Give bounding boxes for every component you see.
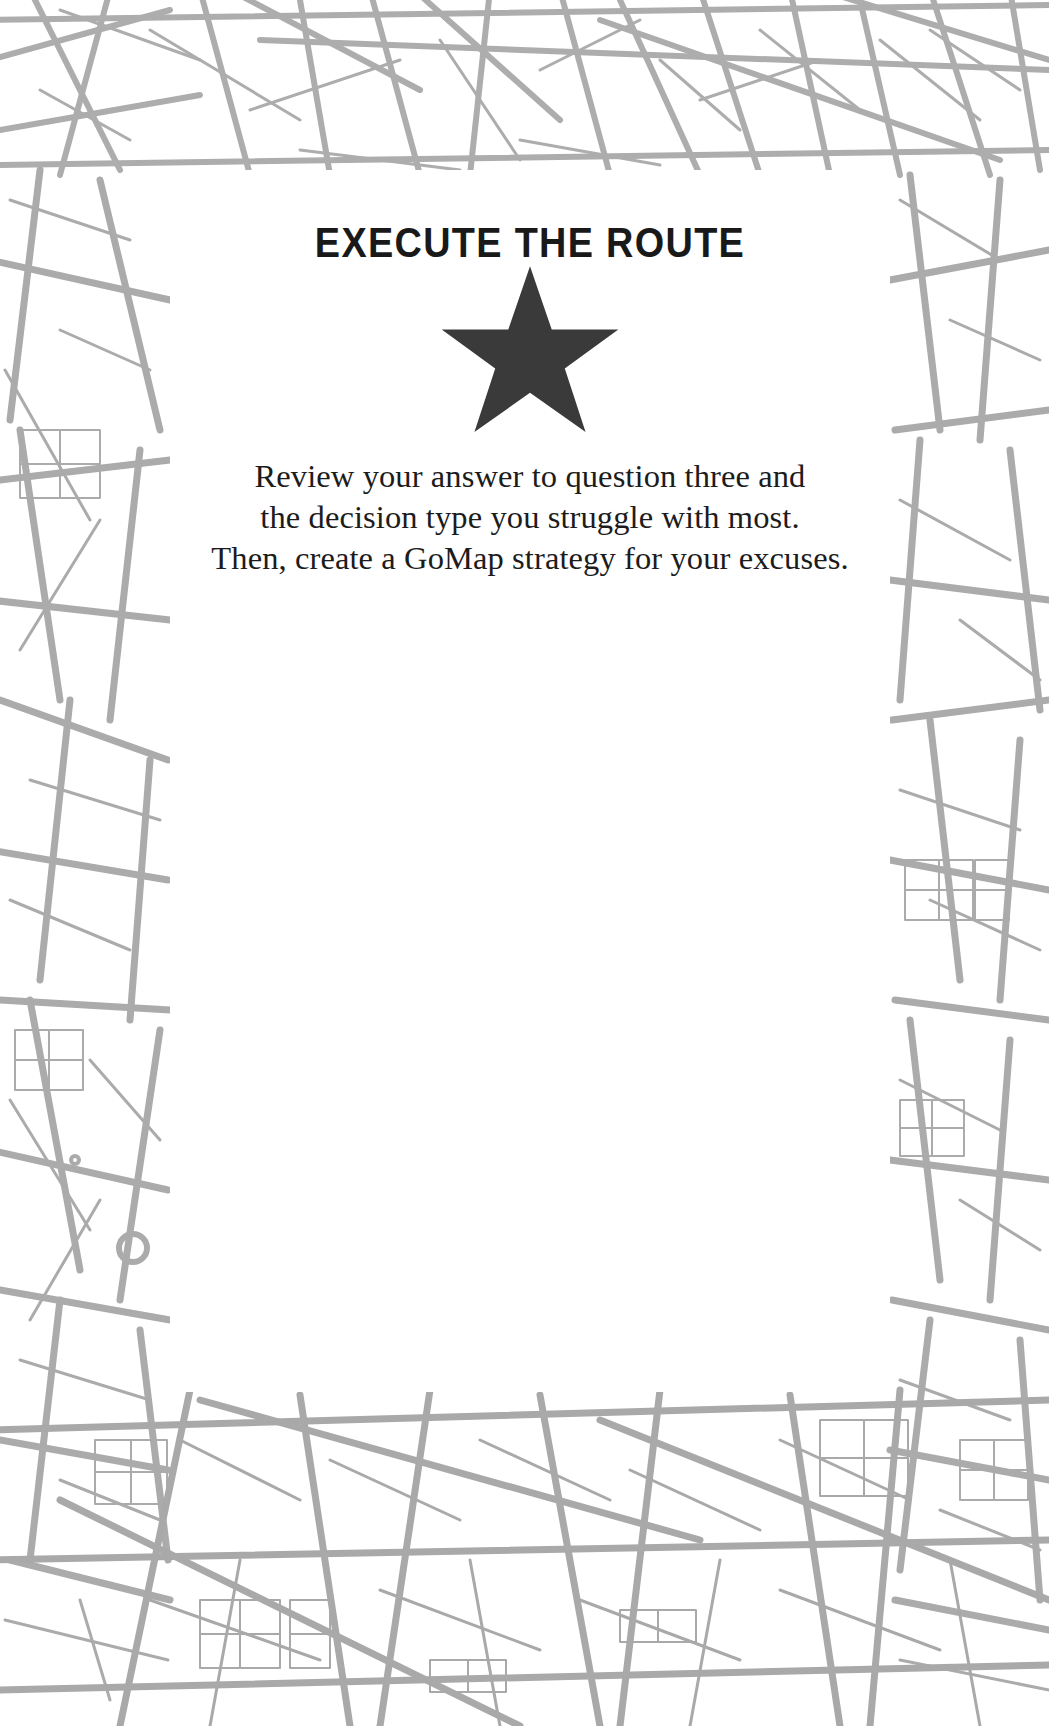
page-title: EXECUTE THE ROUTE <box>213 221 847 264</box>
instruction-line-3: Then, create a GoMap strategy for your e… <box>170 538 890 579</box>
instruction-text: Review your answer to question three and… <box>170 456 890 579</box>
content-card: EXECUTE THE ROUTE Review your answer to … <box>170 170 890 1392</box>
star-divider <box>170 262 890 442</box>
worksheet-page: EXECUTE THE ROUTE Review your answer to … <box>0 0 1049 1726</box>
instruction-line-1: Review your answer to question three and <box>170 456 890 497</box>
instruction-line-2: the decision type you struggle with most… <box>170 497 890 538</box>
star-icon <box>438 262 622 438</box>
